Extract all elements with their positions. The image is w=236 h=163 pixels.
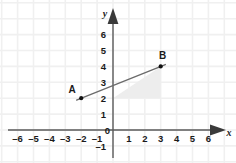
coordinate-plane-figure: –6–5–4–3–2–10123456 –1123456 x y AB bbox=[0, 0, 236, 163]
y-tick-label-4: 4 bbox=[101, 61, 107, 72]
y-tick-label-1: 1 bbox=[101, 109, 107, 120]
x-tick-label--5: –5 bbox=[28, 133, 39, 144]
point-B bbox=[159, 64, 163, 68]
y-tick-label-3: 3 bbox=[101, 77, 106, 88]
y-tick-label--1: –1 bbox=[95, 141, 106, 152]
coordinate-plane-svg: –6–5–4–3–2–10123456 –1123456 x y AB bbox=[0, 0, 236, 163]
x-axis-label: x bbox=[226, 127, 232, 138]
x-tick-label-4: 4 bbox=[174, 133, 180, 144]
point-label-B: B bbox=[159, 50, 166, 61]
y-tick-label-2: 2 bbox=[101, 93, 106, 104]
y-axis-label: y bbox=[102, 8, 108, 19]
x-tick-label--6: –6 bbox=[12, 133, 23, 144]
x-tick-label-5: 5 bbox=[190, 133, 196, 144]
x-tick-label-0: 0 bbox=[105, 125, 110, 136]
x-tick-label--2: –2 bbox=[76, 133, 87, 144]
y-tick-label-6: 6 bbox=[101, 29, 106, 40]
x-tick-label-6: 6 bbox=[206, 133, 211, 144]
point-A bbox=[79, 96, 83, 100]
x-tick-label-3: 3 bbox=[158, 133, 163, 144]
x-tick-label-1: 1 bbox=[126, 133, 132, 144]
x-tick-label--4: –4 bbox=[44, 133, 55, 144]
x-tick-label--3: –3 bbox=[60, 133, 71, 144]
point-label-A: A bbox=[69, 84, 76, 95]
x-tick-label-2: 2 bbox=[142, 133, 147, 144]
y-tick-label-5: 5 bbox=[101, 45, 107, 56]
